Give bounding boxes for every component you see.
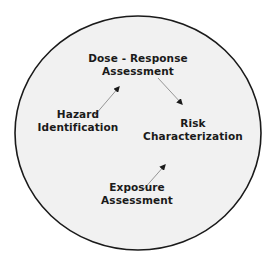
node-label-line: Identification (28, 121, 128, 134)
node-label-line: Characterization (138, 130, 248, 143)
node-label-line: Assessment (92, 194, 182, 207)
risk-assessment-diagram: Dose - Response Assessment Hazard Identi… (0, 0, 275, 268)
node-risk-characterization: Risk Characterization (138, 117, 248, 143)
node-label-line: Risk (138, 117, 248, 130)
node-label-line: Dose - Response (78, 52, 198, 65)
node-label-line: Exposure (92, 181, 182, 194)
node-hazard-identification: Hazard Identification (28, 108, 128, 134)
node-dose-response-assessment: Dose - Response Assessment (78, 52, 198, 78)
node-label-line: Assessment (78, 65, 198, 78)
node-label-line: Hazard (28, 108, 128, 121)
node-exposure-assessment: Exposure Assessment (92, 181, 182, 207)
